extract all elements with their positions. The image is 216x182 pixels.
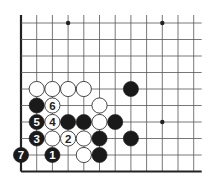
black-stone (61, 114, 76, 129)
white-stone (45, 131, 60, 146)
black-stone-disc (92, 147, 107, 162)
black-stone-disc (61, 114, 76, 129)
white-stone-disc (76, 131, 91, 146)
move-number-label: 6 (49, 100, 55, 112)
white-stone-disc (92, 98, 107, 113)
white-stone-disc (76, 81, 91, 96)
star-point (66, 21, 70, 25)
white-stone-move-4: 4 (45, 114, 60, 129)
white-stone-disc (61, 81, 76, 96)
white-stone-disc (45, 131, 60, 146)
white-stone (45, 81, 60, 96)
black-stone-disc (76, 114, 91, 129)
black-stone-disc (123, 81, 138, 96)
black-stone (92, 147, 107, 162)
black-stone-disc (123, 131, 138, 146)
move-number-label: 2 (65, 133, 71, 145)
white-stone-disc (45, 81, 60, 96)
move-number-label: 4 (49, 116, 56, 128)
move-number-label: 1 (49, 149, 56, 161)
white-stone-move-6: 6 (45, 98, 60, 113)
white-stone (92, 114, 107, 129)
go-board-diagram: 6543271 (0, 0, 216, 182)
move-number-label: 3 (33, 133, 39, 145)
star-point (160, 120, 164, 124)
white-stone-disc (29, 81, 44, 96)
black-stone-move-3: 3 (29, 131, 44, 146)
black-stone (76, 114, 91, 129)
white-stone (76, 131, 91, 146)
white-stone (76, 147, 91, 162)
black-stone-disc (108, 114, 123, 129)
move-number-label: 7 (18, 149, 24, 161)
move-number-label: 5 (33, 116, 40, 128)
white-stone-disc (76, 147, 91, 162)
black-stone (92, 131, 107, 146)
black-stone-move-7: 7 (13, 147, 28, 162)
white-stone-move-2: 2 (61, 131, 76, 146)
black-stone-move-5: 5 (29, 114, 44, 129)
black-stone-disc (29, 98, 44, 113)
black-stone-disc (92, 131, 107, 146)
black-stone (123, 81, 138, 96)
black-stone-move-1: 1 (45, 147, 60, 162)
stones-layer: 6543271 (13, 81, 138, 162)
white-stone (29, 81, 44, 96)
black-stone (123, 131, 138, 146)
white-stone-disc (92, 114, 107, 129)
white-stone (76, 81, 91, 96)
black-stone (29, 98, 44, 113)
white-stone (92, 98, 107, 113)
black-stone (108, 114, 123, 129)
star-point (160, 21, 164, 25)
white-stone (61, 81, 76, 96)
